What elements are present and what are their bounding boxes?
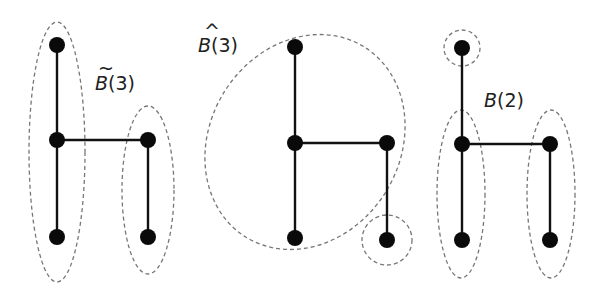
- label-arg: (3): [108, 72, 135, 94]
- node-top: [454, 40, 470, 56]
- diagram-hat-b3: ^ B(3): [165, 0, 445, 287]
- node-bottom-left: [454, 232, 470, 248]
- diagram-tilde-b3: ~ B(3): [29, 22, 174, 282]
- label-arg: (3): [211, 34, 238, 56]
- label-letter: B: [484, 89, 497, 111]
- graph-partition-figure: ~ B(3) ^ B(3) B(2): [0, 0, 595, 296]
- node-mid-left: [287, 135, 303, 151]
- label-letter: B: [198, 34, 211, 56]
- label-main: B(3): [95, 72, 135, 94]
- label-main: B(2): [484, 89, 524, 111]
- node-bottom-right: [542, 232, 558, 248]
- diagram-b2: B(2): [437, 30, 575, 278]
- node-bottom-right: [140, 229, 156, 245]
- label-main: B(3): [198, 34, 238, 56]
- node-mid-right: [379, 135, 395, 151]
- label-b2: B(2): [484, 89, 524, 111]
- label-arg: (2): [497, 89, 524, 111]
- node-mid-right: [542, 136, 558, 152]
- label-letter: B: [95, 72, 108, 94]
- node-top: [287, 39, 303, 55]
- node-mid-right: [140, 132, 156, 148]
- label-tilde-b3: ~ B(3): [95, 57, 135, 94]
- node-mid-left: [49, 132, 65, 148]
- node-top: [49, 37, 65, 53]
- node-bottom-left: [287, 230, 303, 246]
- node-mid-left: [454, 136, 470, 152]
- label-hat-b3: ^ B(3): [198, 20, 238, 56]
- node-bottom-right: [379, 232, 395, 248]
- node-bottom-left: [49, 229, 65, 245]
